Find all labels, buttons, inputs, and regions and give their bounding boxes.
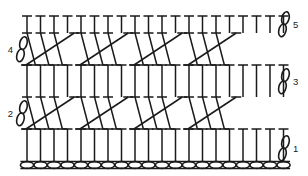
turning-chain-5 [277,11,290,37]
chain-stitch-oval [155,162,168,169]
chain-stitch-oval [169,162,182,169]
row-2-crossed [21,97,241,129]
crossed-strand-back [54,97,62,129]
crochet-chart-diagram: 12345 [0,0,308,176]
crossed-strand-front [80,33,128,65]
crossed-strand-back [216,33,224,65]
row-label-1: 1 [293,143,298,154]
turning-chain-loop [277,147,287,161]
crossed-strand-back [54,33,62,65]
turning-chain-loop [280,68,290,82]
row-4-crossed [21,33,241,65]
stitch-rows-group [21,16,289,161]
chain-stitch-oval [250,162,263,169]
row-5-plain [22,16,289,33]
chain-stitch-oval [47,162,60,169]
turning-chain-4 [15,36,28,62]
turning-chain-2 [15,100,28,126]
chain-stitch-oval [101,162,114,169]
row-3-plain [22,65,289,97]
chain-stitch-oval [223,162,236,169]
crossed-strand-front [188,97,236,129]
row-1-plain [22,129,289,161]
row-label-4: 4 [8,44,13,55]
chain-stitch-oval [74,162,87,169]
crochet-chart-svg: 12345 [0,0,308,176]
crossed-strand-front [26,33,74,65]
chain-stitch-oval [34,162,47,169]
row-labels-group: 12345 [8,19,299,154]
chain-stitch-oval [142,162,155,169]
turning-chain-loop [18,100,28,114]
crossed-strand-back [216,97,224,129]
crossed-strand-front [134,97,182,129]
chain-stitch-oval [128,162,141,169]
chain-stitch-oval [236,162,249,169]
crossed-strand-back [162,97,170,129]
chain-stitch-oval [61,162,74,169]
turning-chain-loop [280,11,290,25]
chain-stitch-oval [182,162,195,169]
crossed-strand-back [41,97,49,129]
crossed-strand-front [188,33,236,65]
chain-stitch-oval [196,162,209,169]
crossed-strand-front [26,97,74,129]
crossed-strand-back [41,33,49,65]
row-label-3: 3 [293,76,298,87]
chain-stitch-oval [88,162,101,169]
crossed-strand-back [108,33,116,65]
crossed-strand-front [80,97,128,129]
chain-stitch-oval [115,162,128,169]
turning-chain-loop [280,135,290,149]
turning-chain-loop [15,112,25,126]
row-label-2: 2 [8,108,13,119]
crossed-strand-back [149,97,157,129]
turning-chain-loop [18,36,28,50]
crossed-strand-back [149,33,157,65]
turning-chain-loop [277,80,287,94]
chain-stitch-oval [20,162,33,169]
chain-stitch-oval [277,162,290,169]
foundation-chain-group [20,162,290,169]
turning-chain-loop [277,23,287,37]
row-label-5: 5 [293,19,298,30]
crossed-strand-back [162,33,170,65]
crossed-strand-back [203,33,211,65]
chain-stitch-oval [263,162,276,169]
crossed-strand-front [134,33,182,65]
crossed-strand-back [203,97,211,129]
turning-chain-loop [15,48,25,62]
crossed-strand-back [108,97,116,129]
chain-stitch-oval [209,162,222,169]
crossed-strand-back [95,97,103,129]
crossed-strand-back [95,33,103,65]
